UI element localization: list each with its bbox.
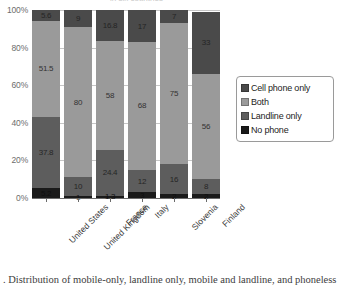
legend-item-label: Cell phone only <box>251 83 310 93</box>
bar-column[interactable]: 775162 <box>160 10 188 198</box>
bar-column[interactable]: 16.85824.41.3 <box>96 10 124 198</box>
legend-item[interactable]: Landline only <box>241 109 330 123</box>
bar-segment[interactable]: 16.8 <box>96 10 124 41</box>
x-axis-category-label: Slovenia <box>190 202 220 232</box>
bar-column[interactable]: 1768123 <box>128 10 156 198</box>
y-tick-label: 60% <box>12 80 28 90</box>
bar-segment[interactable]: 37.8 <box>32 117 60 188</box>
bar-segment-value-label: 75 <box>170 90 178 98</box>
figure-caption-text: . Distribution of mobile-only, landline … <box>3 274 336 285</box>
y-tick-label: 0% <box>16 193 28 203</box>
bar-segment-value-label: 5.6 <box>41 12 51 20</box>
y-axis: 0%20%40%60%80%100% <box>0 10 30 198</box>
legend-swatch-cell-phone-only <box>241 84 249 92</box>
legend-item-label: No phone <box>251 125 288 135</box>
bar-segment[interactable]: 33 <box>192 12 220 74</box>
bar-segment-value-label: 8 <box>204 183 208 191</box>
bar-segment-value-label: 5.2 <box>41 190 51 198</box>
x-axis-category-label: United States <box>67 202 110 245</box>
bar-segment-value-label: 10 <box>74 183 82 191</box>
bar-segment[interactable]: 12 <box>128 170 156 193</box>
bar-segment[interactable]: 51.5 <box>32 21 60 118</box>
bar-segment-value-label: 68 <box>138 102 146 110</box>
legend-swatch-both <box>241 98 249 106</box>
bar-segment-value-label: 9 <box>76 15 80 23</box>
bars-layer: 5.651.537.85.298010116.85824.41.31768123… <box>32 10 220 198</box>
figure-stacked-bar-chart: in six countries 0%20%40%60%80%100% 5.65… <box>0 0 337 291</box>
x-axis-category-label: Italy <box>153 202 171 220</box>
bar-segment[interactable]: 58 <box>96 41 124 150</box>
y-tick-label: 80% <box>12 43 28 53</box>
plot-area: 5.651.537.85.298010116.85824.41.31768123… <box>32 10 220 198</box>
bar-segment-value-label: 16.8 <box>103 22 117 30</box>
bar-segment[interactable]: 5.2 <box>32 188 60 198</box>
legend-swatch-landline-only <box>241 112 249 120</box>
legend-item[interactable]: Cell phone only <box>241 81 330 95</box>
bar-column[interactable]: 335682 <box>192 10 220 198</box>
legend-item[interactable]: Both <box>241 95 330 109</box>
bar-segment-value-label: 51.5 <box>39 65 53 73</box>
bar-segment-value-label: 33 <box>202 39 210 47</box>
legend-item[interactable]: No phone <box>241 123 330 137</box>
y-tick-label: 40% <box>12 118 28 128</box>
legend-item-label: Landline only <box>251 111 301 121</box>
bar-segment-value-label: 80 <box>74 99 82 107</box>
bar-segment-value-label: 12 <box>138 178 146 186</box>
legend-swatch-no-phone <box>241 126 249 134</box>
bar-segment-value-label: 37.8 <box>39 149 53 157</box>
x-axis-labels: United StatesUnited KingdomFranceItalySl… <box>32 202 242 262</box>
bar-segment[interactable]: 75 <box>160 23 188 164</box>
bar-segment-value-label: 17 <box>138 23 146 31</box>
bar-column[interactable]: 980101 <box>64 10 92 198</box>
y-tick-label: 20% <box>12 155 28 165</box>
bar-segment[interactable]: 56 <box>192 74 220 179</box>
bar-segment-value-label: 56 <box>202 123 210 131</box>
bar-segment[interactable]: 5.6 <box>32 10 60 21</box>
bar-segment[interactable]: 9 <box>64 10 92 27</box>
figure-caption: . Distribution of mobile-only, landline … <box>0 274 337 291</box>
bar-segment[interactable]: 80 <box>64 27 92 177</box>
bar-segment-value-label: 58 <box>106 92 114 100</box>
y-tick-label: 100% <box>7 5 28 15</box>
bar-segment[interactable]: 68 <box>128 42 156 170</box>
chart-legend: Cell phone onlyBothLandline onlyNo phone <box>236 76 334 142</box>
bar-column[interactable]: 5.651.537.85.2 <box>32 10 60 198</box>
chart-title-clipped: in six countries <box>110 0 163 3</box>
chart-title-strip: in six countries <box>0 0 337 9</box>
bar-segment-value-label: 24.4 <box>103 169 117 177</box>
bar-segment[interactable]: 16 <box>160 164 188 194</box>
bar-segment[interactable]: 24.4 <box>96 150 124 196</box>
bar-segment[interactable]: 7 <box>160 10 188 23</box>
x-axis-category-label: Finland <box>220 202 247 229</box>
legend-item-label: Both <box>251 97 269 107</box>
bar-segment[interactable]: 17 <box>128 10 156 42</box>
bar-segment-value-label: 7 <box>172 13 176 21</box>
bar-segment-value-label: 16 <box>170 176 178 184</box>
